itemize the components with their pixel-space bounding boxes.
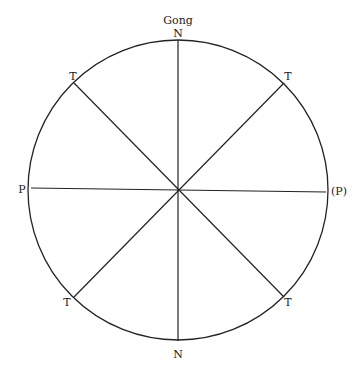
label-right: (P) (331, 185, 347, 198)
label-top-right: T (284, 70, 292, 83)
label-bottom-right: T (284, 296, 292, 309)
label-top: N (173, 27, 183, 40)
label-top-left: T (69, 70, 77, 83)
label-bottom-left: T (63, 296, 71, 309)
gong-diagram: Gong N N P (P) T T T T (0, 0, 356, 366)
label-bottom: N (173, 348, 183, 361)
label-left: P (18, 183, 26, 196)
title-label: Gong (163, 14, 193, 27)
